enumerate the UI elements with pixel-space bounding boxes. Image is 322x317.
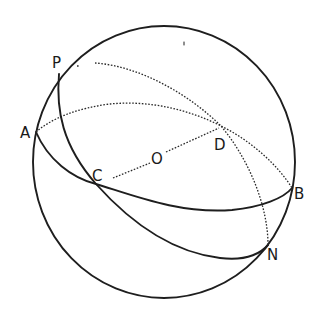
label-c: C — [92, 167, 102, 185]
circle-pcn-back — [95, 63, 268, 245]
label-a: A — [20, 124, 31, 142]
label-b: B — [294, 185, 304, 203]
diameter-cd-right — [166, 128, 219, 152]
label-p: P — [52, 54, 61, 72]
diameter-cd-left — [113, 163, 150, 178]
sphere-diagram: P A C O D B N — [0, 0, 322, 317]
label-d: D — [214, 136, 226, 154]
circle-pcn-front — [58, 74, 268, 259]
circle-acb-front — [36, 132, 292, 211]
sphere-outline — [33, 26, 295, 298]
label-n: N — [267, 246, 278, 264]
label-o: O — [151, 150, 163, 168]
